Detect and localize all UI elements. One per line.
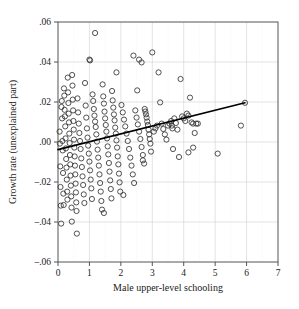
scatter-point [92,30,97,35]
scatter-point [123,124,128,129]
scatter-point [89,196,94,201]
scatter-point [187,95,192,100]
scatter-point [156,70,161,75]
scatter-point [121,117,126,122]
scatter-point [86,151,91,156]
scatter-point [93,124,98,129]
scatter-point [113,125,118,130]
scatter-point [170,146,175,151]
scatter-point [111,105,116,110]
scatter-point [107,169,112,174]
scatter-point [81,182,86,187]
scatter-point [73,172,78,177]
scatter-point [112,118,117,123]
scatter-point [130,172,135,177]
xtick-label: 5 [213,268,218,278]
scatter-point [125,138,130,143]
scatter-point [76,110,81,115]
scatter-point [111,112,116,117]
scatter-point [72,154,77,159]
scatter-point [69,194,74,199]
scatter-point [96,163,101,168]
scatter-point [215,151,220,156]
scatter-point [148,149,153,154]
scatter-point [84,126,89,131]
scatter-point [88,177,93,182]
scatter-point [102,109,107,114]
scatter-plot-figure: 01234567–.06–.04–.02.00.02.04.06Male upp… [0,0,299,309]
scatter-point [76,121,81,126]
scatter-point [131,180,136,185]
scatter-point [161,126,166,131]
scatter-point [78,146,83,151]
scatter-point [70,108,75,113]
ytick-label: .04 [39,57,51,67]
scatter-point [92,113,97,118]
xtick-label: 4 [181,268,186,278]
scatter-point [116,162,121,167]
scatter-point [115,154,120,159]
scatter-point [67,140,72,145]
scatter-point [81,192,86,197]
ytick-label: –.06 [33,257,51,267]
scatter-point [158,100,163,105]
scatter-point [109,88,114,93]
scatter-point [74,231,79,236]
scatter-point [135,122,140,127]
y-axis-title: Growth rate (unexplained part) [7,80,19,204]
scatter-point [121,192,126,197]
scatter-point [131,53,136,58]
scatter-point [69,205,74,210]
scatter-point [67,131,72,136]
scatter-point [75,96,80,101]
xtick-label: 6 [244,268,249,278]
scatter-point [186,150,191,155]
scatter-point [106,160,111,165]
scatter-point [84,115,89,120]
scatter-point [74,200,79,205]
scatter-point [59,98,64,103]
scatter-point [98,189,103,194]
xtick-label: 0 [56,268,61,278]
scatter-point [59,104,64,109]
chart-canvas: 01234567–.06–.04–.02.00.02.04.06Male upp… [0,0,299,309]
scatter-point [83,103,88,108]
scatter-point [100,82,105,87]
scatter-point [142,161,147,166]
scatter-point [96,155,101,160]
scatter-point [77,130,82,135]
scatter-point [72,163,77,168]
scatter-point [176,154,181,159]
scatter-point [128,155,133,160]
scatter-point [60,170,65,175]
scatter-point [162,132,167,137]
scatter-point [108,186,113,191]
xtick-label: 2 [118,268,123,278]
ytick-label: –.04 [33,217,51,227]
scatter-point [178,76,183,81]
scatter-point [114,145,119,150]
scatter-point [129,163,134,168]
scatter-point [66,100,71,105]
scatter-point [140,152,145,157]
scatter-point [192,130,197,135]
scatter-point [119,102,124,107]
scatter-point [92,119,97,124]
scatter-point [71,137,76,142]
scatter-point [191,145,196,150]
scatter-point [105,144,110,149]
scatter-point [99,198,104,203]
scatter-point [106,152,111,157]
scatter-point [65,90,70,95]
scatter-point [82,200,87,205]
axis-ticks: 01234567–.06–.04–.02.00.02.04.06 [33,17,280,278]
scatter-point [91,98,96,103]
scatter-point [140,158,145,163]
scatter-point [175,127,180,132]
scatter-point [69,219,74,224]
ytick-label: .06 [39,17,51,27]
scatter-point [73,190,78,195]
x-axis-title: Male upper-level schooling [113,282,223,293]
scatter-point [135,88,140,93]
scatter-point [79,156,84,161]
